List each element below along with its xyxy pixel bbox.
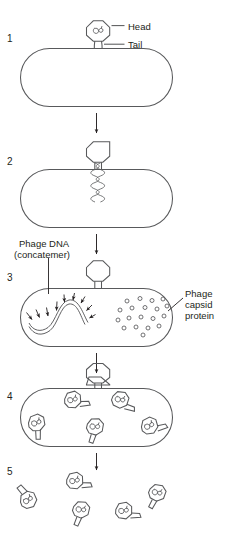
leader-line-capsid — [168, 298, 183, 311]
phage-dna-glyph-1 — [93, 26, 103, 33]
phage-tail-3 — [95, 281, 102, 288]
diagram-canvas — [0, 0, 225, 545]
phage-head-1 — [87, 21, 110, 41]
phage-head-4-empty — [87, 377, 110, 385]
assembled-phage — [26, 413, 48, 441]
phage-head-3-empty — [87, 261, 110, 281]
phage-dna-concatemer — [29, 300, 88, 334]
released-phage — [13, 481, 39, 511]
injected-dna-helix — [91, 163, 105, 202]
released-phage — [66, 471, 93, 490]
assembled-phage — [63, 389, 90, 409]
bacterium-cell-3 — [21, 289, 173, 347]
released-phage — [115, 501, 141, 519]
released-phage — [145, 483, 168, 512]
assembled-phage — [85, 418, 104, 445]
phage-head-4-outline — [87, 364, 110, 384]
released-phage — [70, 500, 91, 527]
assembled-phage — [139, 412, 168, 436]
capsid-protein-dots — [116, 297, 169, 338]
phage-lytic-cycle-diagram: 1 2 3 4 5 Head Tail Phage DNA (concateme… — [0, 0, 225, 545]
phage-tail-1 — [94, 41, 102, 48]
assembled-phage — [110, 390, 138, 412]
phage-head-2-empty — [87, 142, 110, 162]
bacterium-cell-1 — [21, 49, 173, 107]
